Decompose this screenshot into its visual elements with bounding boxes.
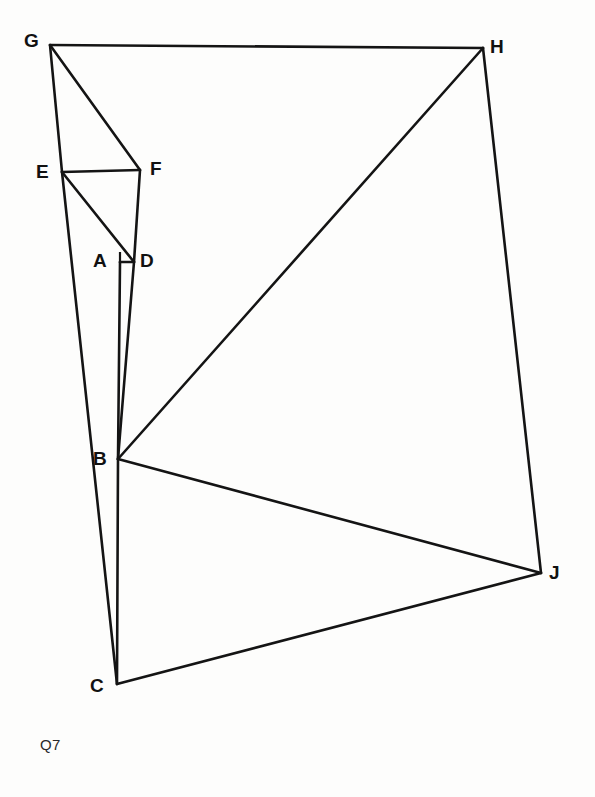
vertex-label-d: D bbox=[140, 251, 154, 270]
edge-G-E bbox=[50, 45, 62, 172]
vertex-label-j: J bbox=[549, 563, 560, 582]
vertex-label-g: G bbox=[24, 31, 39, 50]
edge-B-H bbox=[118, 48, 483, 459]
edge-H-J bbox=[483, 48, 541, 573]
edge-group bbox=[50, 45, 541, 684]
edge-B-J bbox=[118, 459, 541, 573]
vertex-label-c: C bbox=[90, 676, 104, 695]
edge-G-F bbox=[50, 45, 140, 170]
geometry-figure: ABCDEFGHJ Q7 bbox=[0, 0, 595, 797]
edge-E-F bbox=[62, 170, 140, 172]
vertex-label-f: F bbox=[150, 159, 162, 178]
edge-B-C bbox=[117, 459, 118, 684]
vertex-label-a: A bbox=[93, 251, 107, 270]
edge-J-C bbox=[117, 573, 541, 684]
vertex-label-e: E bbox=[36, 162, 49, 181]
figure-caption: Q7 bbox=[40, 737, 61, 752]
edge-E-D bbox=[62, 172, 134, 262]
vertex-label-h: H bbox=[490, 37, 504, 56]
edge-E-C bbox=[62, 172, 117, 684]
edge-G-H bbox=[50, 45, 483, 48]
vertex-label-b: B bbox=[93, 449, 107, 468]
edge-F-D bbox=[134, 170, 140, 262]
